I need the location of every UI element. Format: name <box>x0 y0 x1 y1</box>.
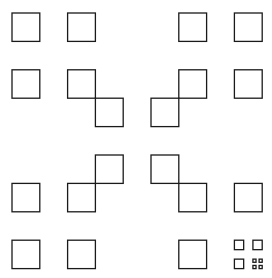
fractal-square <box>68 13 96 41</box>
fractal-square <box>12 70 40 98</box>
fractal-square <box>12 13 40 41</box>
fractal-square <box>68 240 96 268</box>
fractal-square <box>179 13 207 41</box>
fractal-square <box>179 70 207 98</box>
fractal-square <box>68 70 96 98</box>
fractal-subsquare <box>259 259 262 262</box>
fractal-subsquare <box>253 259 256 262</box>
fractal-subsquare <box>253 265 256 268</box>
fractal-square <box>234 13 262 41</box>
fractal-square <box>234 183 262 211</box>
fractal-subsquare <box>234 259 243 268</box>
fractal-square <box>12 240 40 268</box>
fractal-square <box>234 70 262 98</box>
fractal-square <box>68 183 96 211</box>
fractal-subsquare <box>253 240 262 249</box>
fractal-square <box>179 240 207 268</box>
fractal-square <box>12 183 40 211</box>
x-fractal-diagram <box>0 0 272 278</box>
fractal-square <box>151 98 179 126</box>
fractal-subsquare <box>259 265 262 268</box>
fractal-square <box>95 98 123 126</box>
fractal-square <box>179 183 207 211</box>
fractal-subsquare <box>234 240 243 249</box>
fractal-square <box>95 155 123 183</box>
fractal-square <box>151 155 179 183</box>
